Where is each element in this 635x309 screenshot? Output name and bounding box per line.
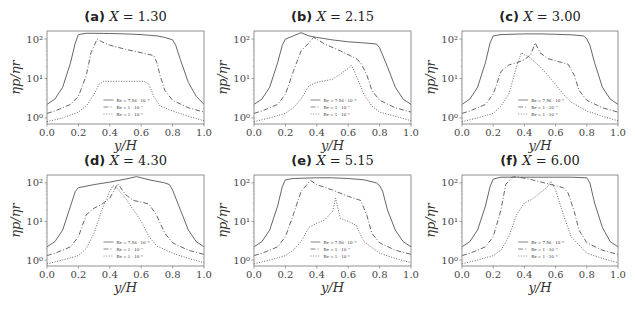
legend-entry: Re = 1 · 10⁻⁵ [531, 254, 558, 259]
series-line [47, 33, 204, 104]
x-tick-label: 0.0 [39, 127, 55, 138]
legend: Re = 7.56 · 10⁻⁸Re = 1 · 10⁻⁷Re = 1 · 10… [104, 98, 150, 117]
panel-title: (c) X = 3.00 [499, 9, 581, 24]
x-tick-label: 0.0 [454, 127, 470, 138]
y-tick-label: 10⁰ [233, 255, 250, 266]
x-tick-label: 0.8 [372, 269, 388, 280]
legend-entry: Re = 7.56 · 10⁻⁸ [324, 98, 357, 103]
x-tick-label: 0.2 [70, 127, 86, 138]
legend-entry: Re = 7.56 · 10⁻⁸ [117, 98, 150, 103]
x-tick-label: 0.0 [454, 269, 470, 280]
x-axis-label: y/H [527, 138, 552, 153]
axes-frame [254, 31, 411, 124]
x-tick-label: 0.4 [102, 269, 118, 280]
x-tick-label: 0.6 [133, 269, 149, 280]
legend-entry: Re = 7.56 · 10⁻⁸ [117, 240, 150, 245]
x-tick-label: 0.8 [579, 269, 595, 280]
axes-frame [47, 175, 204, 266]
x-axis-label: y/H [113, 280, 138, 295]
x-tick-label: 0.2 [277, 269, 293, 280]
x-tick-label: 0.0 [246, 127, 262, 138]
legend: Re = 7.56 · 10⁻⁸Re = 1 · 10⁻⁷Re = 1 · 10… [311, 240, 357, 259]
y-tick-label: 10⁰ [441, 112, 458, 123]
legend-entry: Re = 1 · 10⁻⁷ [531, 105, 558, 110]
x-tick-label: 0.6 [133, 127, 149, 138]
series-line [254, 178, 411, 247]
x-tick-label: 1.0 [610, 269, 626, 280]
x-tick-label: 0.2 [485, 127, 501, 138]
y-tick-label: 10⁰ [441, 255, 458, 266]
series-line [47, 184, 204, 256]
y-tick-label: 10² [441, 177, 458, 188]
x-tick-label: 0.4 [516, 269, 532, 280]
legend-entry: Re = 1 · 10⁻⁵ [531, 112, 558, 117]
legend-entry: Re = 1 · 10⁻⁵ [117, 254, 144, 259]
axes-frame [254, 175, 411, 266]
x-tick-label: 0.0 [246, 269, 262, 280]
x-tick-label: 0.6 [548, 269, 564, 280]
legend-entry: Re = 1 · 10⁻⁵ [117, 112, 144, 117]
panel-title: (b) X = 2.15 [291, 9, 374, 24]
y-axis-label: ηp/ηr [8, 59, 23, 94]
x-tick-label: 1.0 [196, 127, 212, 138]
x-tick-label: 0.8 [372, 127, 388, 138]
series-line [254, 33, 411, 105]
y-tick-label: 10¹ [233, 216, 250, 227]
panel-a: (a) X = 1.300.00.20.40.60.81.010⁰10¹10²y… [8, 9, 212, 153]
panel-title: (f) X = 6.00 [500, 153, 579, 168]
panel-d: (d) X = 4.300.00.20.40.60.81.010⁰10¹10²y… [8, 153, 212, 295]
y-tick-label: 10¹ [26, 73, 43, 84]
panel-e: (e) X = 5.150.00.20.40.60.81.010⁰10¹10²y… [215, 153, 419, 295]
y-axis-label: ηp/ηr [423, 202, 438, 237]
series-line [462, 43, 618, 114]
legend: Re = 7.56 · 10⁻⁸Re = 1 · 10⁻⁷Re = 1 · 10… [104, 240, 150, 259]
y-tick-label: 10¹ [233, 73, 250, 84]
legend-entry: Re = 1 · 10⁻⁵ [324, 254, 351, 259]
axes-frame [462, 31, 618, 124]
panel-c: (c) X = 3.000.00.20.40.60.81.010⁰10¹10²y… [423, 9, 626, 153]
legend-entry: Re = 1 · 10⁻⁷ [117, 247, 144, 252]
series-line [47, 186, 204, 264]
y-tick-label: 10⁰ [233, 112, 250, 123]
legend-entry: Re = 7.56 · 10⁻⁸ [531, 240, 564, 245]
x-axis-label: y/H [527, 280, 552, 295]
axes-frame [47, 31, 204, 124]
x-tick-label: 0.2 [277, 127, 293, 138]
legend-entry: Re = 7.56 · 10⁻⁸ [324, 240, 357, 245]
y-tick-label: 10¹ [441, 73, 458, 84]
y-axis-label: ηp/ηr [423, 59, 438, 94]
panel-title: (a) X = 1.30 [84, 9, 167, 24]
series-line [462, 34, 618, 105]
x-tick-label: 0.4 [309, 269, 325, 280]
legend-entry: Re = 1 · 10⁻⁵ [324, 112, 351, 117]
x-tick-label: 1.0 [196, 269, 212, 280]
x-tick-label: 0.8 [579, 127, 595, 138]
x-tick-label: 0.6 [340, 127, 356, 138]
y-tick-label: 10² [233, 34, 250, 45]
x-tick-label: 0.6 [340, 269, 356, 280]
series-line [47, 177, 204, 247]
x-axis-label: y/H [320, 280, 345, 295]
x-tick-label: 0.2 [70, 269, 86, 280]
panel-b: (b) X = 2.150.00.20.40.60.81.010⁰10¹10²y… [215, 9, 419, 153]
x-axis-label: y/H [320, 138, 345, 153]
legend: Re = 7.56 · 10⁻⁸Re = 1 · 10⁻⁷Re = 1 · 10… [518, 98, 564, 117]
y-tick-label: 10² [441, 34, 458, 45]
legend: Re = 7.56 · 10⁻⁸Re = 1 · 10⁻⁷Re = 1 · 10… [311, 98, 357, 117]
figure-canvas: (a) X = 1.300.00.20.40.60.81.010⁰10¹10²y… [0, 0, 635, 309]
y-tick-label: 10¹ [441, 216, 458, 227]
y-tick-label: 10² [26, 177, 43, 188]
x-tick-label: 0.8 [165, 269, 181, 280]
x-tick-label: 0.4 [102, 127, 118, 138]
legend-entry: Re = 7.56 · 10⁻⁸ [531, 98, 564, 103]
x-axis-label: y/H [113, 138, 138, 153]
x-tick-label: 1.0 [610, 127, 626, 138]
y-tick-label: 10² [233, 177, 250, 188]
legend-entry: Re = 1 · 10⁻⁷ [324, 247, 351, 252]
axes-frame [462, 175, 618, 266]
x-tick-label: 0.4 [309, 127, 325, 138]
panel-title: (d) X = 4.30 [84, 153, 167, 168]
y-axis-label: ηp/ηr [215, 59, 230, 94]
panel-title: (e) X = 5.15 [291, 153, 374, 168]
y-axis-label: ηp/ηr [215, 202, 230, 237]
